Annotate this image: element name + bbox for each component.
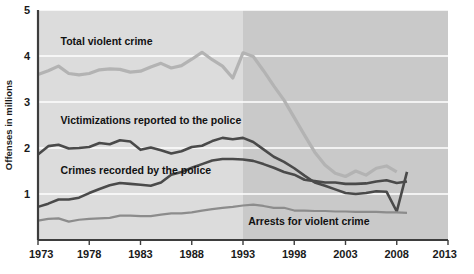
x-tick-label-1993: 1993 [231, 248, 255, 260]
y-axis-title: Offenses in millions [3, 80, 14, 170]
x-tick-label-1988: 1988 [180, 248, 204, 260]
y-tick-label-3: 3 [24, 96, 30, 108]
x-tick-label-1973: 1973 [29, 248, 53, 260]
x-tick-label-1978: 1978 [77, 248, 101, 260]
y-tick-label-1: 1 [24, 188, 30, 200]
x-tick-label-2013: 2013 [433, 248, 457, 260]
y-tick-labels: 12345 [24, 4, 31, 200]
series-label-arrests-for-violent-crime: Arrests for violent crime [248, 215, 370, 227]
series-label-victimizations-reported-to-the-police: Victimizations reported to the police [61, 114, 242, 126]
series-label-crimes-recorded-by-the-police: Crimes recorded by the police [61, 164, 212, 176]
chart-canvas: 197319781983198819931998200320082013 123… [0, 0, 474, 274]
y-tick-label-2: 2 [24, 142, 30, 154]
x-tick-label-2003: 2003 [333, 248, 357, 260]
x-tick-label-1998: 1998 [282, 248, 306, 260]
x-tick-labels: 197319781983198819931998200320082013 [29, 248, 457, 260]
crime-trends-chart: 197319781983198819931998200320082013 123… [0, 0, 474, 274]
y-tick-label-4: 4 [24, 50, 31, 62]
series-label-total-violent-crime: Total violent crime [61, 35, 153, 47]
plot-band-late [243, 10, 448, 240]
y-tick-label-5: 5 [24, 4, 30, 16]
x-tick-label-1983: 1983 [128, 248, 152, 260]
y-axis-title-text: Offenses in millions [3, 80, 14, 170]
x-tick-label-2008: 2008 [385, 248, 409, 260]
